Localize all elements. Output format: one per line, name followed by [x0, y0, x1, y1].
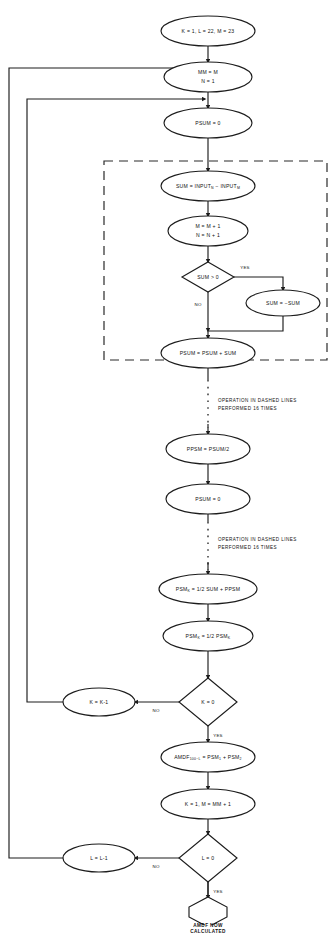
- node-mm-set-label-2: N = 1: [201, 78, 215, 84]
- edge-label-yes-l: YES: [213, 889, 223, 894]
- edge-label-no-k: NO: [152, 708, 159, 713]
- node-k-decrement: K = K-1: [63, 688, 135, 716]
- node-k-test-label: K = 0: [201, 699, 214, 705]
- node-sum-input: SUM = INPUTN − INPUTM: [161, 171, 255, 201]
- annotation-repeat-2: OPERATION IN DASHED LINES PERFORMED 16 T…: [218, 537, 297, 550]
- node-l-decrement: L = L-1: [63, 844, 135, 872]
- node-mm-set: MM = M N = 1: [164, 62, 252, 92]
- node-psm-k-calc: PSMK = 1/2 SUM + PPSM: [159, 574, 257, 604]
- node-l-test-label: L = 0: [202, 855, 215, 861]
- node-psum-zero-1-label: PSUM = 0: [195, 120, 220, 126]
- node-increment-label-1: M = M + 1: [195, 223, 220, 229]
- node-psum-zero-2: PSUM = 0: [166, 484, 250, 514]
- node-sum-negate-label: SUM = −SUM: [266, 300, 300, 306]
- flowchart-diagram: K = 1, L = 22, M = 23 MM = M N = 1 PSUM …: [0, 0, 335, 934]
- edge-label-yes-sum: YES: [240, 265, 250, 270]
- node-psum-accumulate-label: PSUM = PSUM + SUM: [180, 350, 237, 356]
- edge-label-yes-k: YES: [213, 733, 223, 738]
- node-init-label: K = 1, L = 22, M = 23: [182, 28, 235, 34]
- node-sum-negate: SUM = −SUM: [246, 290, 320, 316]
- edge-label-no-sum: NO: [194, 302, 201, 307]
- node-psum-zero-1: PSUM = 0: [164, 108, 252, 138]
- node-k-reset: K = 1, M = MM + 1: [161, 789, 255, 819]
- node-ppsm-label: PPSM = PSUM/2: [187, 446, 229, 452]
- node-mm-set-label-1: MM = M: [198, 69, 218, 75]
- annotation-repeat-2-line-2: PERFORMED 16 TIMES: [218, 545, 277, 550]
- node-k-decrement-label: K = K-1: [90, 699, 109, 705]
- annotation-repeat-1-line-1: OPERATION IN DASHED LINES: [218, 398, 297, 403]
- terminator-caption-line-1: AMDF NOW: [193, 923, 223, 928]
- edge-label-no-l: NO: [152, 864, 159, 869]
- node-psum-accumulate: PSUM = PSUM + SUM: [161, 338, 255, 368]
- node-ppsm: PPSM = PSUM/2: [166, 434, 250, 464]
- node-l-decrement-label: L = L-1: [90, 855, 108, 861]
- node-psm-k-half: PSMK = 1/2 PSMK: [163, 621, 253, 651]
- node-l-test: L = 0: [179, 834, 237, 882]
- node-sum-test: SUM > 0: [182, 262, 234, 292]
- node-increment: M = M + 1 N = N + 1: [168, 216, 248, 246]
- annotation-repeat-1: OPERATION IN DASHED LINES PERFORMED 16 T…: [218, 398, 297, 411]
- node-init: K = 1, L = 22, M = 23: [161, 16, 255, 46]
- node-amdf: AMDF100−L = PSM1 + PSM2: [161, 742, 255, 772]
- annotation-repeat-1-line-2: PERFORMED 16 TIMES: [218, 406, 277, 411]
- terminator-caption: AMDF NOW CALCULATED: [176, 923, 240, 934]
- node-increment-label-2: N = N + 1: [196, 232, 220, 238]
- annotation-repeat-2-line-1: OPERATION IN DASHED LINES: [218, 537, 297, 542]
- node-k-test: K = 0: [179, 678, 237, 726]
- node-sum-test-label: SUM > 0: [197, 274, 219, 280]
- node-k-reset-label: K = 1, M = MM + 1: [185, 801, 231, 807]
- node-psum-zero-2-label: PSUM = 0: [195, 496, 220, 502]
- terminator-caption-line-2: CALCULATED: [190, 929, 226, 934]
